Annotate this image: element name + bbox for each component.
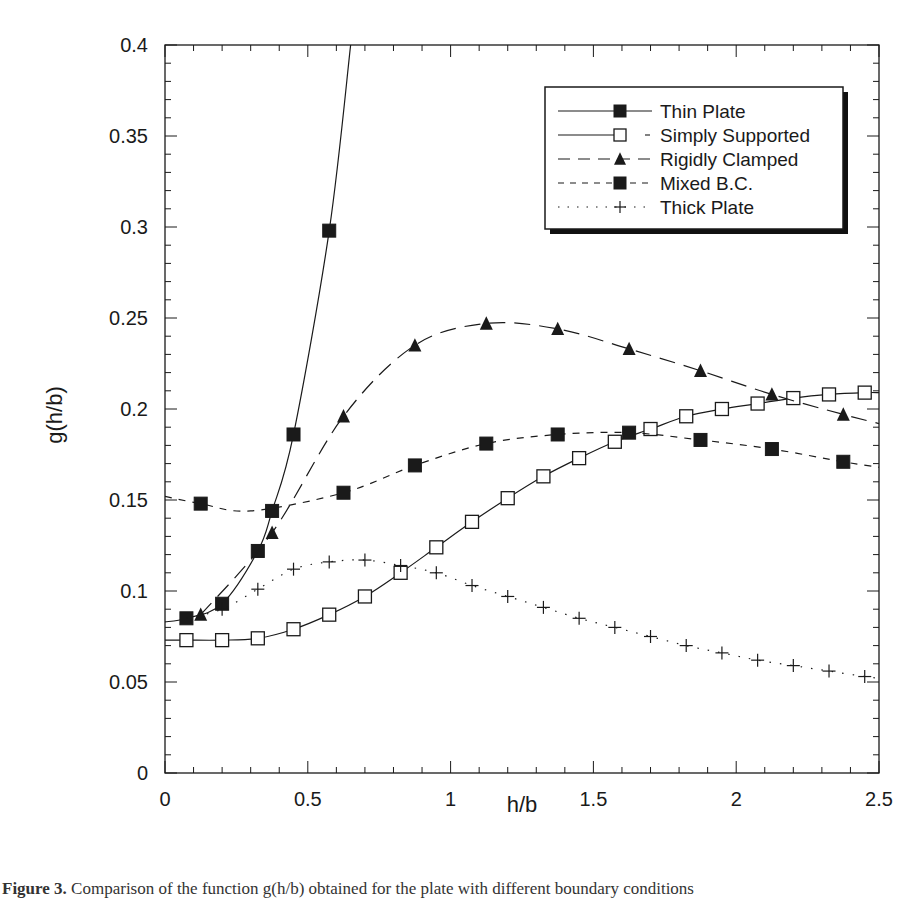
filled-square-marker-icon — [694, 433, 707, 446]
legend-label: Simply Supported — [660, 125, 810, 146]
open-square-marker-icon — [537, 470, 550, 483]
open-square-marker-icon — [466, 515, 479, 528]
filled-square-marker-icon — [408, 459, 421, 472]
series-rigidly-clamped — [194, 316, 879, 621]
y-tick-label: 0.35 — [109, 125, 148, 147]
open-square-marker-icon — [573, 452, 586, 465]
x-tick-label: 0.5 — [294, 788, 322, 810]
x-tick-label: 2 — [731, 788, 742, 810]
y-tick-label: 0.05 — [109, 671, 148, 693]
filled-square-marker-icon — [266, 504, 279, 517]
open-square-marker-icon — [501, 492, 514, 505]
x-tick-label: 1.5 — [579, 788, 607, 810]
y-tick-label: 0.2 — [120, 398, 148, 420]
open-square-marker-icon — [251, 632, 264, 645]
figure-caption: Figure 3. Comparison of the function g(h… — [2, 879, 694, 899]
filled-square-marker-icon — [337, 486, 350, 499]
filled-triangle-marker-icon — [765, 387, 778, 400]
series-line — [165, 45, 351, 622]
caption-label: Figure 3. — [2, 879, 67, 898]
filled-triangle-marker-icon — [408, 338, 421, 351]
y-tick-label: 0.15 — [109, 489, 148, 511]
open-square-marker-icon — [823, 388, 836, 401]
y-tick-label: 0.1 — [120, 580, 148, 602]
open-square-marker-icon — [323, 608, 336, 621]
series-line — [186, 560, 879, 678]
open-square-marker-icon — [430, 541, 443, 554]
filled-square-marker-icon — [287, 428, 300, 441]
filled-triangle-marker-icon — [837, 407, 850, 420]
filled-square-marker-icon — [623, 426, 636, 439]
legend: Thin PlateSimply SupportedRigidly Clampe… — [545, 87, 848, 234]
filled-square-marker-icon — [480, 437, 493, 450]
filled-square-marker-icon — [837, 455, 850, 468]
filled-square-marker-icon — [551, 428, 564, 441]
x-tick-label: 0 — [159, 788, 170, 810]
series-line — [201, 323, 879, 615]
y-axis-title: g(h/b) — [42, 386, 67, 443]
open-square-marker-icon — [787, 392, 800, 405]
x-axis-title: h/b — [507, 792, 538, 817]
filled-square-marker-icon — [614, 177, 626, 189]
y-tick-label: 0 — [137, 762, 148, 784]
open-square-marker-icon — [858, 386, 871, 399]
legend-label: Rigidly Clamped — [660, 149, 798, 170]
filled-square-marker-icon — [765, 443, 778, 456]
open-square-marker-icon — [216, 634, 229, 647]
legend-label: Mixed B.C. — [660, 173, 753, 194]
open-square-marker-icon — [608, 435, 621, 448]
open-square-marker-icon — [358, 590, 371, 603]
series-mixed-b-c — [165, 426, 879, 511]
filled-square-marker-icon — [194, 497, 207, 510]
x-tick-label: 1 — [445, 788, 456, 810]
legend-label: Thin Plate — [660, 101, 746, 122]
open-square-marker-icon — [715, 403, 728, 416]
filled-square-marker-icon — [323, 224, 336, 237]
filled-triangle-marker-icon — [694, 364, 707, 377]
legend-label: Thick Plate — [660, 197, 754, 218]
open-square-marker-icon — [180, 634, 193, 647]
filled-square-marker-icon — [614, 105, 626, 117]
caption-text: Comparison of the function g(h/b) obtain… — [71, 879, 694, 898]
series-thin-plate — [165, 45, 351, 625]
series-thick-plate — [186, 554, 879, 683]
open-square-marker-icon — [287, 623, 300, 636]
open-square-marker-icon — [614, 129, 626, 141]
filled-triangle-marker-icon — [623, 342, 636, 355]
x-tick-label: 2.5 — [865, 788, 893, 810]
open-square-marker-icon — [751, 397, 764, 410]
y-tick-label: 0.25 — [109, 307, 148, 329]
y-tick-label: 0.4 — [120, 34, 148, 56]
open-square-marker-icon — [680, 410, 693, 423]
y-tick-label: 0.3 — [120, 216, 148, 238]
